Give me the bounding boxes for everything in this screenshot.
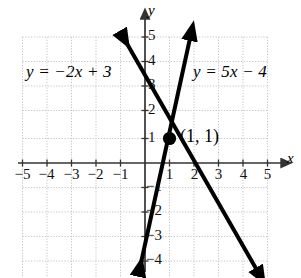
x-tick-label--5: −5	[10, 166, 35, 183]
intersection-point-label: (1, 1)	[180, 126, 219, 147]
x-tick-label--3: −3	[59, 166, 84, 183]
coordinate-graph-figure: y = −2x + 3 y = 5x − 4 (1, 1) x y −5 −4 …	[0, 0, 301, 278]
x-tick-label-3: 3	[210, 166, 227, 183]
y-tick-label--3: −3	[138, 227, 162, 244]
intersection-point-marker	[163, 132, 176, 145]
equation-label-left: y = −2x + 3	[26, 62, 112, 82]
x-tick-label-1: 1	[161, 166, 178, 183]
y-tick-label-3: 3	[148, 76, 162, 93]
x-tick-label--2: −2	[83, 166, 108, 183]
y-tick-label-2: 2	[148, 101, 162, 118]
x-tick-label-2: 2	[186, 166, 203, 183]
x-tick-label--1: −1	[108, 166, 133, 183]
equation-label-right: y = 5x − 4	[193, 62, 267, 82]
y-tick-label--2: −2	[138, 202, 162, 219]
x-tick-label--4: −4	[34, 166, 59, 183]
y-tick-label--4: −4	[138, 251, 162, 268]
x-tick-label-5: 5	[259, 166, 276, 183]
y-tick-label-5: 5	[148, 27, 162, 44]
y-axis-label: y	[148, 2, 155, 19]
y-tick-label--1: −1	[138, 178, 162, 195]
x-tick-label-4: 4	[235, 166, 252, 183]
y-tick-label-4: 4	[148, 52, 162, 69]
y-tick-label-1: 1	[148, 129, 162, 146]
x-axis-label: x	[287, 150, 294, 167]
